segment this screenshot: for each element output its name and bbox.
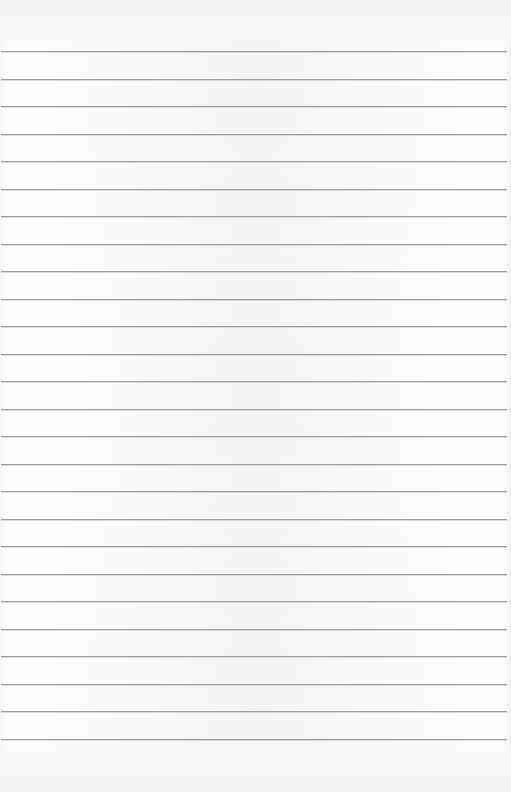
ruled-line (1, 271, 507, 272)
ruled-line (1, 381, 507, 382)
ruled-line (1, 519, 507, 520)
ruled-line (1, 161, 507, 162)
ruled-line (1, 436, 507, 437)
ruled-line (1, 51, 507, 52)
ruled-line (1, 189, 507, 190)
top-margin (0, 0, 511, 48)
ruled-line (1, 216, 507, 217)
ruled-line (1, 326, 507, 327)
ruled-line (1, 464, 507, 465)
ruled-line (1, 684, 507, 685)
ruled-line (1, 244, 507, 245)
lined-paper-page (0, 0, 511, 792)
ruled-line (1, 106, 507, 107)
ruled-line (1, 134, 507, 135)
ruled-line (1, 299, 507, 300)
ruled-line (1, 574, 507, 575)
ruled-line (1, 601, 507, 602)
ruled-line (1, 711, 507, 712)
ruled-line (1, 79, 507, 80)
ruled-line (1, 629, 507, 630)
ruled-line (1, 409, 507, 410)
ruled-line (1, 354, 507, 355)
ruled-line (1, 656, 507, 657)
ruled-line (1, 491, 507, 492)
ruled-line (1, 546, 507, 547)
ruled-line (1, 739, 507, 740)
bottom-margin (0, 742, 511, 792)
